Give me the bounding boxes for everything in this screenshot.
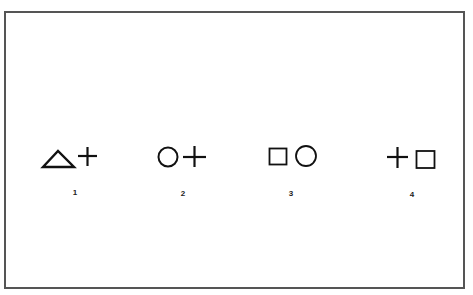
item-4-symbols xyxy=(387,147,435,168)
square-icon xyxy=(417,151,435,168)
plus-icon xyxy=(387,147,408,168)
item-3-label: 3 xyxy=(289,189,293,198)
symbol-pairs xyxy=(0,0,473,295)
item-2-symbols xyxy=(159,146,207,167)
plus-icon xyxy=(78,147,97,166)
item-4-label: 4 xyxy=(410,190,414,199)
triangle-icon xyxy=(43,151,74,167)
item-1-symbols xyxy=(43,147,97,167)
circle-icon xyxy=(296,146,316,166)
item-3-symbols xyxy=(270,146,317,166)
item-2-label: 2 xyxy=(181,189,185,198)
circle-icon xyxy=(159,148,178,167)
plus-icon xyxy=(183,146,206,167)
square-icon xyxy=(270,149,287,165)
item-1-label: 1 xyxy=(73,188,77,197)
